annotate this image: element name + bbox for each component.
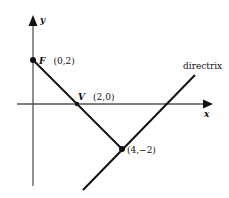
diagram-canvas: y x F (0,2) V (2,0) (4,−2) directrix — [0, 0, 229, 198]
directrix-label: directrix — [183, 61, 222, 71]
vertex-label-name: V — [78, 92, 86, 102]
x-axis-arrow-icon — [203, 100, 213, 109]
vertex-point — [75, 102, 79, 106]
vertex-label-coords: (2,0) — [93, 92, 114, 102]
focus-label: F (0,2) — [38, 49, 75, 68]
focus-label-coords: (0,2) — [53, 56, 74, 66]
x-axis-label: x — [203, 109, 210, 119]
y-axis-arrow-icon — [29, 15, 38, 26]
y-axis-label: y — [39, 15, 46, 25]
focus-label-name: F — [38, 56, 46, 66]
x-axis — [17, 100, 213, 109]
vertex-label: V (2,0) — [78, 85, 114, 104]
focus-point — [30, 57, 36, 63]
y-axis — [29, 15, 38, 186]
point-4-neg2 — [119, 146, 125, 152]
point-label: (4,−2) — [127, 145, 156, 155]
